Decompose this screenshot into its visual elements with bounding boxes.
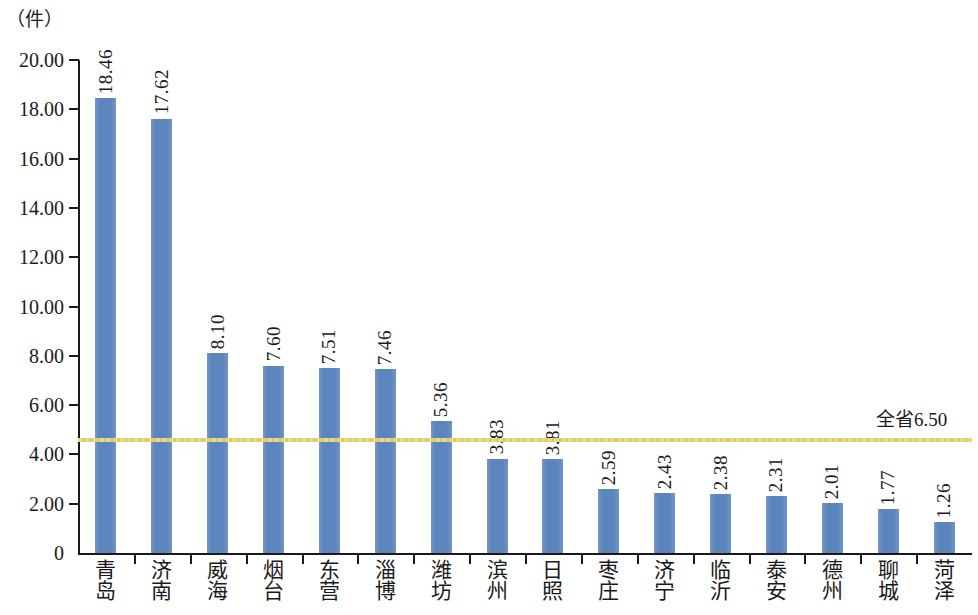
y-axis-tick-label: 14.00 [19,198,64,218]
x-axis-category-label: 济南 [147,560,177,603]
x-axis-category-char: 德 [817,560,847,581]
x-axis-category-char: 博 [370,581,400,602]
y-axis-tick [69,108,79,110]
bar-value-label: 2.43 [655,454,674,489]
bar-value-label: 2.59 [599,450,618,485]
y-axis-tick [69,59,79,61]
x-axis-category-label: 潍坊 [426,560,456,603]
y-axis-tick-label: 20.00 [19,50,64,70]
x-axis-category-char: 照 [538,581,568,602]
bar-value-label: 1.26 [934,483,953,518]
y-axis-tick-label: 0 [54,543,64,563]
bar-value-label: 7.60 [264,326,283,361]
x-axis-category-label: 德州 [817,560,847,603]
bar [934,522,955,553]
y-axis-tick [69,306,79,308]
y-axis-tick-label: 10.00 [19,297,64,317]
province-average-line [78,438,972,442]
province-average-label: 全省6.50 [876,410,947,429]
x-axis-category-char: 宁 [650,581,680,602]
x-axis-category-char: 州 [482,581,512,602]
y-axis-tick-label: 4.00 [29,444,64,464]
bar [319,368,340,553]
x-axis-category-label: 泰安 [761,560,791,603]
bar-value-label: 7.46 [375,330,394,365]
bar [766,496,787,553]
x-axis-category-label: 青岛 [91,560,121,603]
plot-area: 18.4617.628.107.607.517.465.363.833.812.… [78,60,972,553]
x-axis-category-char: 青 [91,560,121,581]
x-axis-category-char: 临 [706,560,736,581]
bar-value-label: 5.36 [431,382,450,417]
bar [710,494,731,553]
y-axis-tick [69,207,79,209]
x-axis-category-char: 海 [203,581,233,602]
x-axis-category-char: 菏 [929,560,959,581]
bar-value-label: 2.31 [766,457,785,492]
x-axis-category-char: 聊 [873,560,903,581]
bar [375,369,396,553]
x-axis-category-char: 台 [259,581,289,602]
x-axis-category-char: 威 [203,560,233,581]
x-axis-category-char: 济 [650,560,680,581]
bar [151,119,172,553]
bar [598,489,619,553]
x-axis-category-char: 沂 [706,581,736,602]
bar-value-label: 2.38 [711,455,730,490]
y-axis-unit-label: （件） [6,10,63,29]
bar-value-label: 17.62 [152,69,171,114]
y-axis-tick-label: 18.00 [19,99,64,119]
bar-value-label: 18.46 [96,49,115,94]
x-axis-category-label: 菏泽 [929,560,959,603]
y-axis-tick [69,355,79,357]
x-axis-category-label: 淄博 [370,560,400,603]
y-axis-tick [69,256,79,258]
x-axis-category-label: 枣庄 [594,560,624,603]
bar-value-label: 8.10 [208,314,227,349]
x-axis-category-char: 岛 [91,581,121,602]
x-axis-category-char: 日 [538,560,568,581]
x-axis-category-label: 烟台 [259,560,289,603]
x-axis-category-label: 滨州 [482,560,512,603]
x-axis-category-char: 济 [147,560,177,581]
x-axis-category-char: 安 [761,581,791,602]
bar [542,459,563,553]
bar-chart: （件） 20.0018.0016.0014.0012.0010.008.006.… [0,0,978,615]
bar-value-label: 7.51 [319,329,338,364]
x-axis-category-label: 东营 [314,560,344,603]
y-axis-tick-label: 12.00 [19,247,64,267]
x-axis-category-labels: 青岛济南威海烟台东营淄博潍坊滨州日照枣庄济宁临沂泰安德州聊城菏泽 [78,560,972,615]
x-axis-category-char: 南 [147,581,177,602]
x-axis-category-char: 庄 [594,581,624,602]
bar-value-label: 1.77 [878,470,897,505]
y-axis-tick [69,503,79,505]
x-axis-category-char: 淄 [370,560,400,581]
y-axis-tick [69,158,79,160]
x-axis-category-label: 聊城 [873,560,903,603]
bar [822,503,843,553]
x-axis-category-char: 州 [817,581,847,602]
x-axis-category-label: 临沂 [706,560,736,603]
y-axis-tick-label: 2.00 [29,494,64,514]
bar [207,353,228,553]
y-axis-tick-label: 8.00 [29,346,64,366]
bar [654,493,675,553]
y-axis-tick-label: 6.00 [29,395,64,415]
x-axis-category-char: 潍 [426,560,456,581]
bar [878,509,899,553]
y-axis-tick-label: 16.00 [19,149,64,169]
y-axis-tick-labels: 20.0018.0016.0014.0012.0010.008.006.004.… [0,60,70,553]
bar [487,459,508,553]
y-axis-tick [69,404,79,406]
x-axis-category-char: 滨 [482,560,512,581]
bar-value-label: 2.01 [822,464,841,499]
x-axis-category-char: 泰 [761,560,791,581]
bar [95,98,116,553]
x-axis-category-label: 日照 [538,560,568,603]
x-axis-category-label: 威海 [203,560,233,603]
y-axis-tick [69,453,79,455]
x-axis-category-char: 东 [314,560,344,581]
x-axis-category-label: 济宁 [650,560,680,603]
x-axis-category-char: 城 [873,581,903,602]
x-axis-category-char: 坊 [426,581,456,602]
